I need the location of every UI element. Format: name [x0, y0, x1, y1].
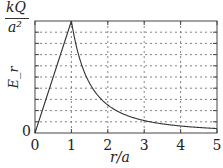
x-tick-label: 3	[140, 137, 149, 153]
y-axis-label: E_r	[6, 66, 21, 88]
chart-canvas: 012345	[0, 0, 223, 168]
x-tick-label: 5	[213, 137, 222, 153]
x-tick-label: 0	[31, 137, 40, 153]
x-tick-label: 4	[176, 137, 185, 153]
y-top-label-denominator: a²	[8, 19, 22, 35]
x-tick-label: 1	[67, 137, 76, 153]
grid-lines	[35, 21, 217, 133]
y-zero-label: 0	[22, 123, 31, 139]
x-axis-label: r/a	[110, 149, 130, 165]
y-top-label-numerator: kQ	[6, 0, 26, 15]
